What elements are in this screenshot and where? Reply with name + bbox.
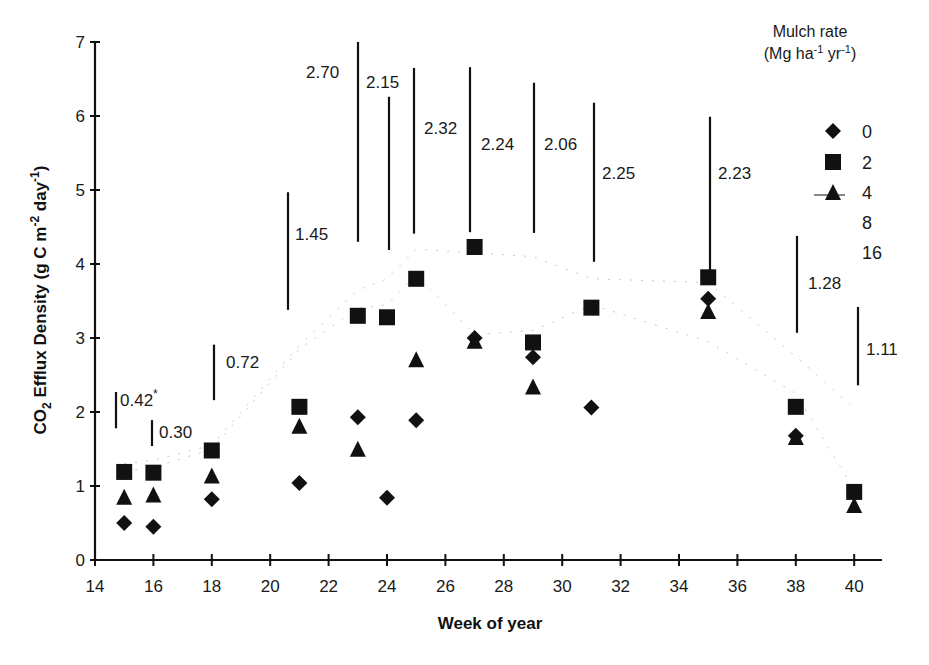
lsd-label-week-21: 1.45 [295,225,328,244]
point-series-2 [525,334,541,350]
x-tick-label: 32 [611,577,630,596]
legend-units: (Mg ha-1 yr-1) [764,43,856,62]
lsd-label-week-23: 2.70 [306,63,339,82]
x-tick-label: 38 [786,577,805,596]
point-series-2 [291,399,307,415]
y-tick-label: 5 [76,181,85,200]
y-tick-label: 3 [76,329,85,348]
legend-entry-0-label: 0 [862,122,872,142]
point-series-2 [788,399,804,415]
legend-title: Mulch rate [773,23,848,40]
lsd-label-week-16: 0.30 [159,423,192,442]
point-series-2 [204,442,220,458]
y-tick-label: 0 [76,551,85,570]
lsd-label-week-24: 2.15 [366,73,399,92]
point-series-0 [204,491,220,507]
point-series-4 [467,333,483,349]
legend: Mulch rate (Mg ha-1 yr-1) 024816 [764,23,882,263]
legend-entry-8-label: 8 [862,213,872,233]
y-tick-label: 7 [76,33,85,52]
point-series-0 [145,519,161,535]
x-tick-label: 16 [144,577,163,596]
lsd-label-week-38: 1.28 [808,274,841,293]
point-series-4 [204,467,220,483]
axes: 012345671416182022242628303234363840 [76,33,882,596]
point-series-4 [700,303,716,319]
y-tick-label: 1 [76,477,85,496]
x-tick-label: 20 [261,577,280,596]
lsd-label-week-15: 0.42* [120,387,158,410]
lsd-label-week-35: 2.23 [718,164,751,183]
point-series-0 [116,515,132,531]
legend-entry-4-label: 4 [862,183,872,203]
point-series-2 [408,271,424,287]
point-series-2 [583,300,599,316]
lsd-label-week-27: 2.24 [481,135,514,154]
legend-entry-16-label: 16 [862,243,882,263]
x-tick-label: 30 [553,577,572,596]
y-tick-label: 2 [76,403,85,422]
point-series-4 [291,418,307,434]
x-tick-label: 24 [378,577,397,596]
point-series-2 [700,269,716,285]
point-series-4 [145,487,161,503]
lsd-label-week-40: 1.11 [866,340,898,359]
point-series-2 [116,464,132,480]
legend-entry-2-label: 2 [862,153,872,173]
point-series-4 [525,379,541,395]
legend-entry-4-triangle-icon [825,184,841,200]
point-series-4 [350,441,366,457]
point-series-2 [379,309,395,325]
legend-entries: 024816 [814,122,882,263]
x-tick-label: 36 [728,577,747,596]
point-series-0 [525,349,541,365]
x-tick-label: 40 [845,577,864,596]
lsd-label-week-25: 2.32 [424,119,457,138]
data-points [116,239,862,535]
point-series-4 [116,489,132,505]
lsd-label-week-31: 2.25 [602,164,635,183]
point-series-2 [145,465,161,481]
point-series-0 [291,475,307,491]
legend-entry-0-diamond-icon [825,123,841,139]
x-tick-label: 22 [319,577,338,596]
y-tick-label: 4 [76,255,85,274]
point-series-0 [350,409,366,425]
y-axis-title: CO2 Efflux Density (g C m-2 day-1) [28,166,54,435]
x-tick-label: 14 [86,577,105,596]
co2-efflux-chart: 012345671416182022242628303234363840 0.4… [0,0,929,665]
point-series-2 [350,308,366,324]
lsd-label-week-29: 2.06 [544,135,577,154]
point-series-4 [408,351,424,367]
x-axis-title: Week of year [438,614,543,633]
y-tick-label: 6 [76,107,85,126]
x-tick-label: 18 [202,577,221,596]
point-series-0 [583,400,599,416]
x-tick-label: 28 [494,577,513,596]
x-tick-label: 26 [436,577,455,596]
point-series-0 [408,412,424,428]
series-8-line [124,275,854,490]
point-series-2 [467,239,483,255]
lsd-label-week-18: 0.72 [226,353,259,372]
lsd-bars: 0.42*0.300.721.452.702.152.322.242.062.2… [116,42,898,446]
point-series-0 [379,490,395,506]
x-tick-label: 34 [670,577,689,596]
lsd-footnote-marker: * [153,387,158,401]
legend-entry-2-square-icon [825,154,841,170]
